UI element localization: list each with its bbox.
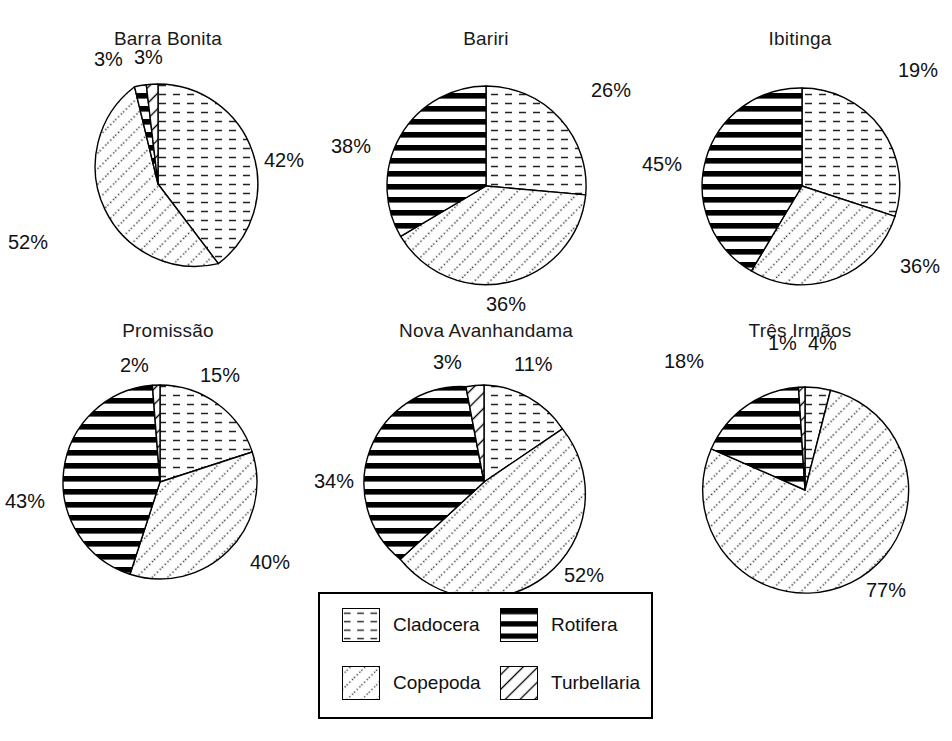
pie-chart-svg xyxy=(650,54,950,318)
pie-label-rotifera: 3% xyxy=(94,49,123,69)
legend-item-cladocera[interactable]: Cladocera xyxy=(342,608,480,642)
pie-label-cladocera: 26% xyxy=(591,80,631,100)
pie-label-turbellaria: 2% xyxy=(120,355,149,375)
legend-label: Cladocera xyxy=(393,614,480,636)
legend-label: Rotifera xyxy=(551,614,618,636)
copepoda-swatch-icon xyxy=(342,666,380,700)
chart-panel-tres-irmaos: Três Irmãos 1% 4% 77% 18% xyxy=(650,320,950,610)
pie-label-copepoda: 36% xyxy=(486,294,526,314)
chart-title: Ibitinga xyxy=(650,28,950,50)
rotifera-swatch-icon xyxy=(500,608,538,642)
pie-holder: 19% 36% 45% xyxy=(650,54,950,318)
pie-holder: 1% 4% 77% 18% xyxy=(650,346,950,610)
pie-label-cladocera: 19% xyxy=(898,60,938,80)
pie-slices xyxy=(702,88,900,285)
chart-title: Bariri xyxy=(336,28,636,50)
chart-title: Promissão xyxy=(18,320,318,342)
pie-label-copepoda: 36% xyxy=(900,256,940,276)
chart-panel-ibitinga: Ibitinga 19% 36% 45% xyxy=(650,28,950,318)
pie-label-rotifera: 38% xyxy=(331,136,371,156)
pie-label-rotifera: 43% xyxy=(5,491,45,511)
pie-label-rotifera: 18% xyxy=(664,351,704,371)
legend-label: Turbellaria xyxy=(551,672,640,694)
legend-item-rotifera[interactable]: Rotifera xyxy=(500,608,618,642)
cladocera-swatch-icon xyxy=(342,608,380,642)
pie-label-cladocera: 4% xyxy=(808,333,837,353)
pie-slices xyxy=(95,84,258,266)
pie-chart-svg xyxy=(650,346,950,610)
pie-slice-cladocera[interactable] xyxy=(486,86,586,195)
pie-label-cladocera: 15% xyxy=(200,365,240,385)
pie-label-copepoda: 52% xyxy=(564,565,604,585)
pie-label-cladocera: 11% xyxy=(514,354,553,374)
chart-title: Três Irmãos xyxy=(650,320,950,342)
turbellaria-swatch-icon xyxy=(500,666,538,700)
pie-label-turbellaria: 3% xyxy=(433,352,462,372)
pie-label-rotifera: 34% xyxy=(314,471,354,491)
pie-label-rotifera: 45% xyxy=(642,154,682,174)
chart-panel-barra-bonita: Barra Bonita 3% 3% 42% 52% xyxy=(18,28,318,318)
chart-panel-promissao: Promissão 2% 15% 40% 43% xyxy=(18,320,318,610)
pie-label-turbellaria: 1% xyxy=(768,333,797,353)
pie-label-turbellaria: 3% xyxy=(134,47,163,67)
chart-title: Nova Avanhandama xyxy=(336,320,636,342)
pie-holder: 3% 3% 42% 52% xyxy=(18,54,318,318)
pie-holder: 3% 11% 52% 34% xyxy=(336,346,636,610)
chart-title: Barra Bonita xyxy=(18,28,318,50)
legend-item-turbellaria[interactable]: Turbellaria xyxy=(500,666,640,700)
pie-slices xyxy=(703,387,909,593)
pie-label-copepoda: 77% xyxy=(866,580,906,600)
legend-label: Copepoda xyxy=(393,672,481,694)
pie-holder: 26% 36% 38% xyxy=(336,54,636,318)
pie-slices xyxy=(364,385,585,598)
pie-label-cladocera: 42% xyxy=(264,150,304,170)
chart-panel-nova-avanhandama: Nova Avanhandama 3% 11% 52% 34% xyxy=(336,320,636,610)
pie-chart-figure: Barra Bonita 3% 3% 42% 52% xyxy=(0,0,952,741)
legend-item-copepoda[interactable]: Copepoda xyxy=(342,666,481,700)
chart-panel-bariri: Bariri 26% 36% 38% xyxy=(336,28,636,318)
legend-box: Cladocera Rotifera Copepoda xyxy=(318,592,653,719)
pie-slices xyxy=(387,86,586,285)
pie-chart-svg xyxy=(18,54,318,318)
pie-holder: 2% 15% 40% 43% xyxy=(18,346,318,610)
pie-slices xyxy=(63,385,257,579)
pie-label-copepoda: 52% xyxy=(8,232,48,252)
pie-label-copepoda: 40% xyxy=(250,552,290,572)
